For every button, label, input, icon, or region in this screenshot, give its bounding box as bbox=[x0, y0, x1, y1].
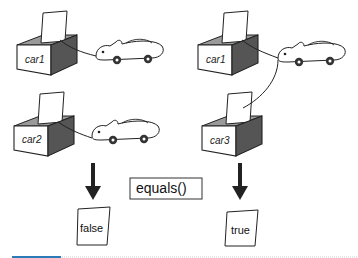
car-object-left-top bbox=[96, 39, 163, 64]
box-label-car1-right: car1 bbox=[206, 54, 225, 65]
box-car1-left: car1 bbox=[17, 11, 77, 75]
arrow-left-head bbox=[85, 186, 101, 200]
box-car2-left: car2 bbox=[14, 92, 74, 156]
result-true-text: true bbox=[231, 224, 250, 236]
equals-method-label: equals() bbox=[136, 180, 187, 196]
equals-method-box: equals() bbox=[130, 178, 202, 199]
result-false: false bbox=[77, 207, 110, 245]
car-object-left-bottom bbox=[92, 119, 159, 144]
result-true: true bbox=[225, 210, 258, 246]
box-car1-right: car1 bbox=[198, 11, 258, 75]
car-object-right bbox=[278, 41, 345, 66]
box-label-car3-right: car3 bbox=[210, 135, 230, 146]
box-label-car1-left: car1 bbox=[25, 54, 44, 65]
arrow-right-head bbox=[232, 186, 248, 200]
equals-diagram: car1 car2 false equals() car1 car3 true bbox=[0, 0, 358, 258]
result-false-text: false bbox=[80, 222, 103, 234]
box-label-car2-left: car2 bbox=[22, 134, 42, 145]
